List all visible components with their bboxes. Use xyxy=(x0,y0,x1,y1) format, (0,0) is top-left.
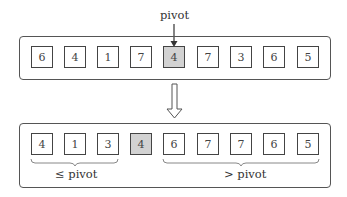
left-group-label: ≤ pivot xyxy=(55,167,97,181)
before-cell: 7 xyxy=(130,46,152,68)
after-cell: 1 xyxy=(64,133,86,155)
right-group-label: > pivot xyxy=(224,167,266,181)
after-pivot-cell: 4 xyxy=(130,133,152,155)
after-cell: 5 xyxy=(297,133,319,155)
before-cell: 5 xyxy=(297,46,319,68)
after-cell: 3 xyxy=(97,133,119,155)
after-cell: 4 xyxy=(31,133,53,155)
before-cell: 3 xyxy=(230,46,252,68)
transform-down-arrow-icon xyxy=(167,84,182,118)
before-cell: 7 xyxy=(197,46,219,68)
before-cell: 6 xyxy=(31,46,53,68)
after-cell: 7 xyxy=(197,133,219,155)
after-cell: 6 xyxy=(263,133,285,155)
before-cell: 1 xyxy=(97,46,119,68)
before-cell: 6 xyxy=(263,46,285,68)
after-cell: 6 xyxy=(163,133,185,155)
before-cell: 4 xyxy=(64,46,86,68)
pivot-label: pivot xyxy=(160,8,189,22)
before-pivot-cell: 4 xyxy=(163,46,185,68)
after-cell: 7 xyxy=(230,133,252,155)
